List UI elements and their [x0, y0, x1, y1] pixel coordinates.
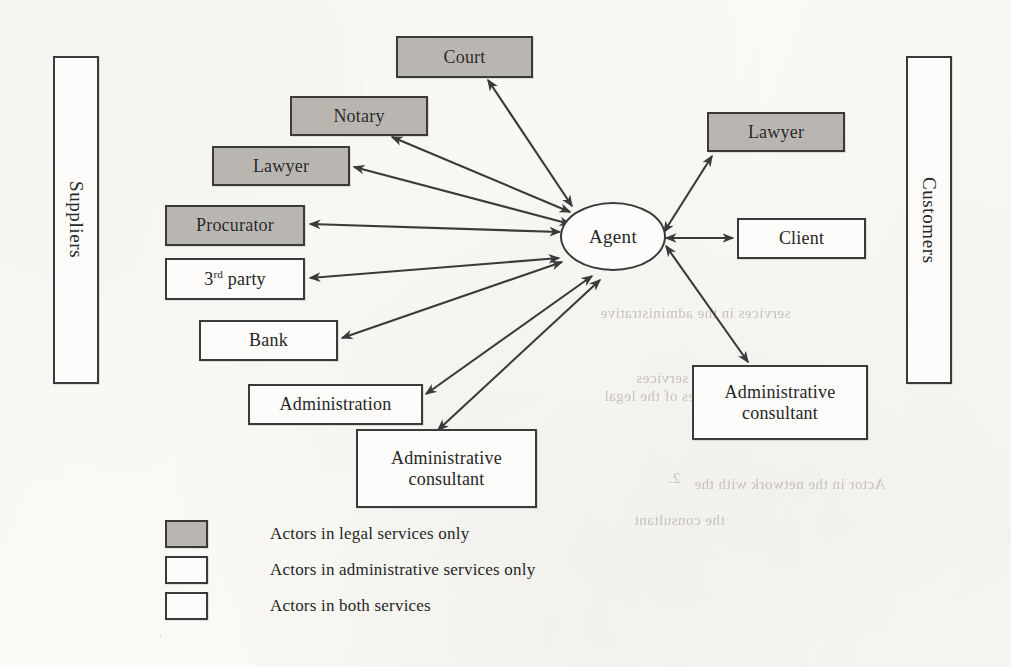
legend-swatch-administrative-icon [165, 556, 208, 584]
legend-swatch-legal-icon [165, 520, 208, 548]
node-admin-consultant-right[interactable]: Administrative consultant [692, 365, 868, 440]
edge-agent-bank [342, 262, 562, 338]
edge-agent-procurator [310, 224, 560, 232]
diagram-canvas: services in the administrative services … [0, 0, 1011, 667]
edge-agent-notary [392, 137, 570, 212]
ghost-text: 2. [668, 470, 680, 487]
edge-agent-administration [426, 276, 592, 394]
node-client[interactable]: Client [737, 218, 866, 259]
ghost-text: the consultant [634, 512, 725, 529]
node-third-party[interactable]: 3rd party [165, 258, 305, 300]
node-lawyer-right[interactable]: Lawyer [707, 112, 845, 152]
edge-agent-court [488, 80, 572, 206]
edge-agent-admin-consultant-left [438, 280, 600, 430]
node-procurator-label: Procurator [190, 215, 280, 235]
suppliers-boundary: Suppliers [53, 56, 99, 384]
node-administration-label: Administration [274, 394, 398, 414]
edge-agent-admin-consultant-right [666, 246, 748, 362]
node-court-label: Court [437, 47, 491, 67]
legend-label-legal: Actors in legal services only [270, 524, 469, 544]
customers-label: Customers [918, 177, 940, 264]
agent-node[interactable]: Agent [560, 202, 666, 271]
suppliers-label: Suppliers [65, 181, 87, 258]
legend-item-both: Actors in both services [165, 592, 431, 620]
ghost-text: services in the administrative [600, 305, 790, 322]
node-client-label: Client [773, 228, 830, 248]
node-admin-consultant-left[interactable]: Administrative consultant [356, 429, 537, 508]
edge-agent-third-party [310, 258, 559, 278]
node-lawyer-left[interactable]: Lawyer [212, 146, 350, 186]
node-admin-consultant-left-label: Administrative consultant [358, 448, 535, 488]
edge-agent-lawyer-left [354, 167, 570, 224]
node-procurator[interactable]: Procurator [165, 205, 305, 246]
ghost-text: services [636, 370, 688, 387]
ghost-text: Actor in the network with the [694, 476, 886, 493]
node-admin-consultant-right-label: Administrative consultant [694, 382, 866, 422]
node-lawyer-right-label: Lawyer [742, 122, 810, 142]
customers-boundary: Customers [906, 56, 952, 384]
node-notary[interactable]: Notary [290, 96, 428, 136]
legend-label-both: Actors in both services [270, 596, 431, 616]
node-notary-label: Notary [327, 106, 390, 126]
node-bank-label: Bank [243, 330, 294, 350]
node-lawyer-left-label: Lawyer [247, 156, 315, 176]
ghost-text: · [158, 628, 163, 644]
legend-label-administrative: Actors in administrative services only [270, 560, 535, 580]
edge-agent-lawyer-right [664, 156, 712, 232]
agent-label: Agent [589, 226, 637, 248]
node-court[interactable]: Court [396, 36, 533, 78]
node-bank[interactable]: Bank [199, 320, 338, 361]
legend-item-legal: Actors in legal services only [165, 520, 469, 548]
node-administration[interactable]: Administration [248, 384, 423, 425]
legend-item-administrative: Actors in administrative services only [165, 556, 535, 584]
legend-swatch-both-icon [165, 592, 208, 620]
node-third-party-label: 3rd party [198, 268, 272, 289]
